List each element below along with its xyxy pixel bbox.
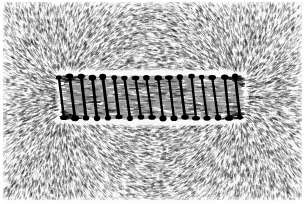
photographic-plate: Magnetic field of a solenoid revealed by…: [0, 0, 304, 204]
halftone-grain-layer: [0, 0, 304, 204]
figure-container: Magnetic field of a solenoid revealed by…: [0, 0, 304, 204]
